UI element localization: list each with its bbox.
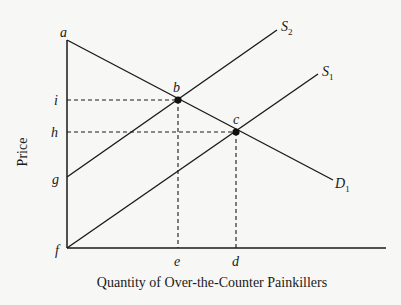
equilibrium-point-c: [232, 128, 239, 135]
supply-demand-diagram: a b c i h g f e d S2 S1 D1 Quantity of O…: [0, 0, 401, 305]
label-g: g: [52, 172, 59, 187]
label-d: d: [232, 254, 240, 269]
label-b: b: [173, 80, 180, 95]
label-s2: S2: [281, 19, 293, 37]
equilibrium-point-b: [174, 96, 181, 103]
supply-curve-s2: [67, 30, 277, 177]
label-a: a: [60, 25, 67, 40]
y-axis-title: Price: [15, 138, 30, 167]
label-f: f: [55, 243, 61, 258]
label-s1: S1: [322, 64, 334, 82]
label-d1: D1: [334, 176, 350, 194]
label-e: e: [174, 254, 180, 269]
demand-curve-d1: [67, 40, 333, 180]
x-axis-title: Quantity of Over-the-Counter Painkillers: [97, 275, 327, 290]
label-h: h: [51, 125, 58, 140]
label-i: i: [54, 93, 58, 108]
label-c: c: [233, 112, 240, 127]
